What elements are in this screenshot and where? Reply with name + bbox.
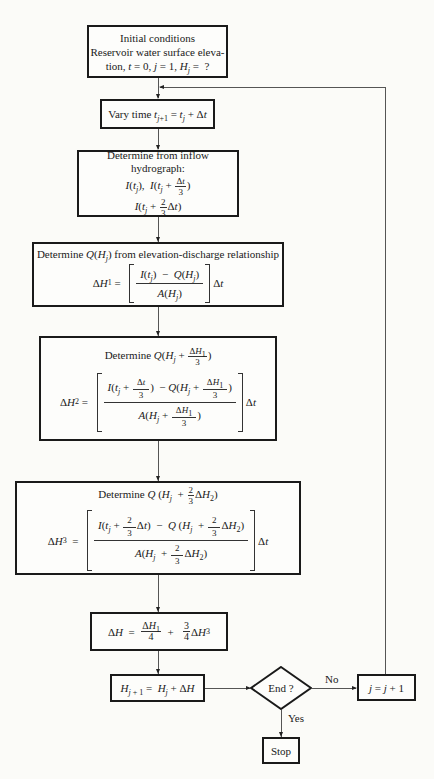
initial-conditions-line2: Reservoir water surface eleva-	[90, 45, 224, 59]
increment-j-box: j = j + 1	[357, 674, 416, 701]
delta-h1-title-prefix: Determine	[37, 248, 83, 260]
loop-back-vertical	[385, 87, 386, 674]
initial-conditions-prefix: tion,	[106, 60, 129, 72]
vary-time-formula: tj+1 = tj + Δt	[151, 107, 206, 121]
initial-conditions-line3: tion, t = 0, j = 1, Hj = ?	[106, 59, 210, 73]
vary-time-label: Vary time	[108, 107, 151, 121]
connector-decision-to-increment	[312, 688, 356, 689]
delta-h1-equation: ΔH1 = I(tj) − Q(Hj) A(Hj) Δt	[93, 264, 224, 303]
initial-conditions-title: Initial conditions	[120, 31, 195, 45]
delta-h3-box: Determine Q (Hj + 23ΔH2) ΔH3 = I(tj + 23…	[15, 481, 301, 575]
delta-h-equation: ΔH = ΔH14 + 34ΔH3	[108, 621, 210, 642]
yes-label: Yes	[288, 712, 304, 724]
delta-h2-title: Determine Q(Hj + ΔH13)	[105, 346, 212, 367]
initial-conditions-box: Initial conditions Reservoir water surfa…	[87, 25, 228, 78]
stop-box: Stop	[262, 737, 300, 764]
delta-h-box: ΔH = ΔH14 + 34ΔH3	[90, 612, 228, 651]
delta-h1-box: Determine Q(Hj) from elevation-discharge…	[32, 242, 284, 307]
connector-dh2-to-dh3	[158, 441, 159, 481]
increment-j-equation: j = j + 1	[369, 681, 404, 695]
delta-h2-box: Determine Q(Hj + ΔH13) ΔH2 = I(tj + Δt3)…	[39, 336, 277, 441]
delta-h1-title-suffix: from elevation-discharge relationship	[114, 248, 279, 260]
delta-h2-equation: ΔH2 = I(tj + Δt3) − Q(Hj + ΔH13) A(Hj + …	[60, 373, 256, 432]
update-h-equation: Hj + 1 = Hj + ΔH	[120, 681, 194, 695]
inflow-values-line1: I(tj), I(tj + Δt3)	[126, 176, 191, 197]
inflow-title: Determine from inflow hydrograph:	[79, 149, 237, 175]
stop-label: Stop	[271, 744, 291, 758]
arrow-head-icon	[159, 85, 164, 89]
delta-h3-title-prefix: Determine	[98, 488, 144, 500]
end-decision-label: End ?	[250, 666, 312, 710]
connector-update-to-decision	[205, 688, 250, 689]
delta-h3-equation: ΔH3 = I(tj + 23Δt) − Q (Hj + 23ΔH2) A(Hj…	[48, 510, 269, 571]
delta-h2-title-prefix: Determine	[105, 349, 151, 361]
no-label: No	[325, 673, 338, 685]
update-h-box: Hj + 1 = Hj + ΔH	[110, 674, 205, 702]
vary-time-box: Vary time tj+1 = tj + Δt	[100, 99, 215, 129]
delta-h1-title: Determine Q(Hj) from elevation-discharge…	[37, 247, 279, 261]
loop-back-horizontal	[160, 87, 386, 88]
inflow-hydrograph-box: Determine from inflow hydrograph: I(tj),…	[77, 150, 239, 217]
inflow-values-line2: I(tj + 23Δt)	[135, 197, 182, 218]
end-decision-diamond: End ?	[250, 666, 312, 710]
delta-h3-title: Determine Q (Hj + 23ΔH2)	[98, 485, 217, 506]
